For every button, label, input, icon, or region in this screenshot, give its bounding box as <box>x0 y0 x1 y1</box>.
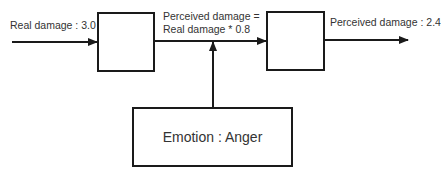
emotion-box-label: Emotion : Anger <box>134 129 291 145</box>
process-box-2 <box>266 11 325 71</box>
output-label: Perceived damage : 2.4 <box>330 16 441 29</box>
process-box-1 <box>97 12 155 72</box>
input-label: Real damage : 3.0 <box>10 19 96 32</box>
middle-label-line1: Perceived damage = <box>163 10 260 23</box>
middle-label-line2: Real damage * 0.8 <box>163 23 250 36</box>
emotion-box: Emotion : Anger <box>132 107 293 167</box>
